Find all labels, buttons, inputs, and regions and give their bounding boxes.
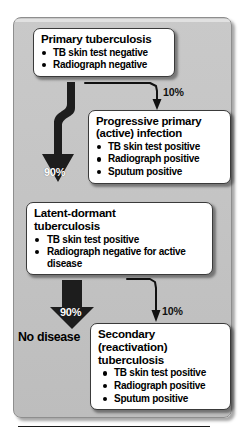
box-secondary-title-line3: tuberculosis — [98, 354, 224, 367]
branch-primary-to-progressive — [84, 82, 170, 112]
bullet-icon — [97, 170, 101, 174]
no-disease-label: No disease — [18, 330, 80, 344]
arrow-label-90-primary: 90% — [44, 166, 65, 178]
bullet-icon — [103, 397, 107, 401]
box-latent-title-line2: tuberculosis — [34, 220, 206, 233]
list-item: Sputum positive — [98, 393, 224, 405]
list-item: Radiograph positive — [98, 380, 224, 392]
branch-latent-to-secondary — [126, 278, 170, 324]
box-secondary-title-line2: (reactivation) — [98, 341, 224, 354]
bullet-icon — [42, 51, 46, 55]
box-progressive-title-line1: Progressive primary — [96, 115, 224, 127]
bullet-icon — [103, 371, 107, 375]
arrow-label-10-progressive: 10% — [163, 86, 184, 98]
list-item: Radiograph negative — [41, 59, 168, 71]
list-item-text: Radiograph positive — [108, 153, 199, 164]
list-item: TB skin test negative — [41, 47, 168, 59]
list-item-text: TB skin test positive — [108, 141, 200, 152]
bullet-icon — [97, 145, 101, 149]
tuberculosis-flowchart-figure: 90% 10% 90% 10% No disease Primary tuber… — [0, 0, 244, 437]
bullet-icon — [103, 384, 107, 388]
list-item: TB skin test positive — [98, 367, 224, 379]
figure-bottom-rule — [18, 426, 210, 427]
bullet-icon — [35, 238, 39, 242]
arrow-latent-to-no-disease — [48, 280, 98, 330]
list-item-text: Radiograph negative — [53, 59, 147, 70]
box-progressive-list: TB skin test positive Radiograph positiv… — [96, 141, 224, 178]
box-primary-title: Primary tuberculosis — [41, 33, 168, 46]
box-latent-list: TB skin test positive Radiograph negativ… — [34, 234, 206, 270]
box-secondary-reactivation-tuberculosis: Secondary (reactivation) tuberculosis TB… — [90, 323, 231, 410]
list-item-text-continued: disease — [47, 258, 206, 270]
bullet-icon — [97, 157, 101, 161]
list-item-text: Radiograph positive — [114, 380, 205, 391]
list-item: TB skin test positive — [96, 141, 224, 153]
box-progressive-title-line2: (active) infection — [96, 127, 224, 139]
list-item-text: TB skin test positive — [114, 367, 206, 378]
arrow-label-90-latent: 90% — [60, 306, 81, 318]
arrow-label-10-secondary: 10% — [162, 305, 183, 317]
list-item: TB skin test positive — [34, 234, 206, 246]
list-item-text: Sputum positive — [108, 166, 182, 177]
box-primary-list: TB skin test negative Radiograph negativ… — [41, 47, 168, 71]
list-item-text: TB skin test positive — [47, 234, 139, 245]
bullet-icon — [42, 63, 46, 67]
box-latent-title-line1: Latent-dormant — [34, 207, 206, 220]
list-item-text: Sputum positive — [114, 393, 188, 404]
panel-highlight — [15, 19, 230, 22]
bullet-icon — [35, 250, 39, 254]
list-item-text: Radiograph negative for active — [47, 246, 186, 257]
box-secondary-title-line1: Secondary — [98, 328, 224, 341]
box-secondary-list: TB skin test positive Radiograph positiv… — [98, 367, 224, 404]
list-item: Sputum positive — [96, 166, 224, 178]
box-progressive-primary-infection: Progressive primary (active) infection T… — [88, 110, 231, 184]
list-item: Radiograph positive — [96, 153, 224, 165]
box-primary-tuberculosis: Primary tuberculosis TB skin test negati… — [33, 28, 175, 77]
box-latent-dormant-tuberculosis: Latent-dormant tuberculosis TB skin test… — [26, 202, 213, 275]
list-item-text: TB skin test negative — [53, 47, 148, 58]
list-item: Radiograph negative for activedisease — [34, 246, 206, 269]
